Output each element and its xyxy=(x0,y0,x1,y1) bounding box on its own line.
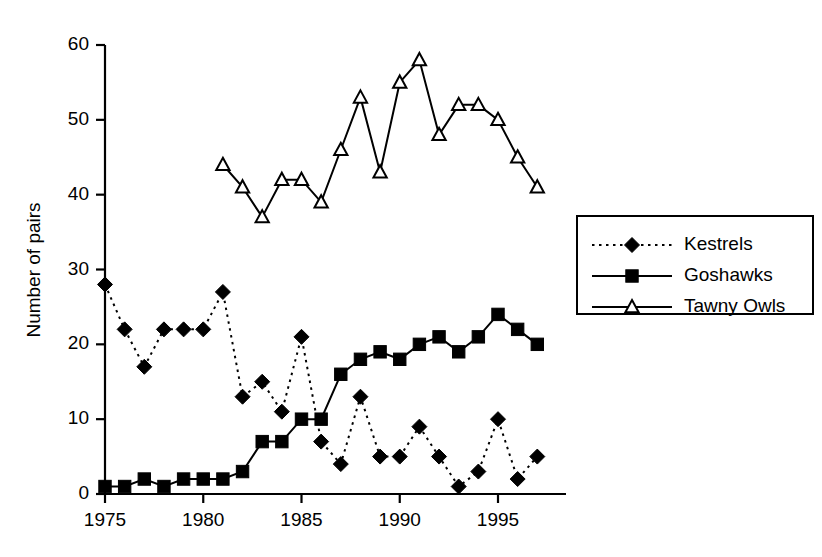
data-point-square xyxy=(394,353,406,365)
legend-label: Kestrels xyxy=(684,233,753,254)
data-point-diamond xyxy=(373,449,388,464)
x-tick-label: 1975 xyxy=(84,509,126,530)
data-point-square xyxy=(531,338,543,350)
data-point-triangle xyxy=(432,128,445,140)
y-tick-label: 10 xyxy=(68,407,89,428)
data-point-diamond xyxy=(510,472,525,487)
data-point-diamond xyxy=(117,322,132,337)
data-point-square xyxy=(492,308,504,320)
data-point-square xyxy=(217,473,229,485)
series-layer xyxy=(98,53,545,494)
data-point-diamond xyxy=(491,412,506,427)
data-point-diamond xyxy=(451,479,466,494)
data-point-diamond xyxy=(98,277,113,292)
y-axis-ticks: 0102030405060 xyxy=(68,33,105,503)
data-point-diamond xyxy=(274,404,289,419)
data-point-square xyxy=(335,368,347,380)
data-point-square xyxy=(138,473,150,485)
data-point-triangle xyxy=(354,90,367,102)
data-point-triangle xyxy=(413,53,426,65)
legend-label: Goshawks xyxy=(684,264,773,285)
data-point-diamond xyxy=(156,322,171,337)
data-point-diamond xyxy=(294,329,309,344)
data-point-triangle xyxy=(256,210,269,222)
data-point-square xyxy=(413,338,425,350)
data-point-diamond xyxy=(176,322,191,337)
data-point-square xyxy=(374,346,386,358)
y-tick-label: 20 xyxy=(68,332,89,353)
y-axis-title: Number of pairs xyxy=(23,202,44,337)
data-point-diamond xyxy=(196,322,211,337)
x-tick-label: 1990 xyxy=(379,509,421,530)
data-point-diamond xyxy=(314,434,329,449)
data-point-diamond xyxy=(432,449,447,464)
data-point-square xyxy=(354,353,366,365)
data-point-triangle xyxy=(511,150,524,162)
y-tick-label: 40 xyxy=(68,183,89,204)
data-point-square xyxy=(256,435,268,447)
data-point-square xyxy=(295,413,307,425)
data-point-square xyxy=(158,480,170,492)
data-point-square xyxy=(626,270,638,282)
series-line xyxy=(223,60,537,217)
data-point-triangle xyxy=(491,113,504,125)
data-point-square xyxy=(315,413,327,425)
data-point-square xyxy=(118,480,130,492)
data-point-diamond xyxy=(392,449,407,464)
data-point-diamond xyxy=(137,359,152,374)
data-point-triangle xyxy=(216,158,229,170)
x-tick-label: 1995 xyxy=(477,509,519,530)
x-tick-label: 1980 xyxy=(182,509,224,530)
legend-label: Tawny Owls xyxy=(684,295,785,316)
chart-legend: KestrelsGoshawksTawny Owls xyxy=(577,216,813,316)
series-tawny-owls xyxy=(216,53,544,222)
y-tick-label: 0 xyxy=(78,482,89,503)
y-tick-label: 30 xyxy=(68,258,89,279)
series-kestrels xyxy=(98,277,545,494)
data-point-diamond xyxy=(215,284,230,299)
data-point-square xyxy=(472,331,484,343)
population-line-chart: Number of pairs 0102030405060 1975198019… xyxy=(0,0,822,557)
y-tick-label: 50 xyxy=(68,108,89,129)
data-point-triangle xyxy=(334,143,347,155)
data-point-square xyxy=(236,465,248,477)
data-point-diamond xyxy=(353,389,368,404)
data-point-diamond xyxy=(255,374,270,389)
data-point-square xyxy=(511,323,523,335)
data-point-square xyxy=(197,473,209,485)
data-point-square xyxy=(276,435,288,447)
series-line xyxy=(105,284,537,486)
x-axis-ticks: 19751980198519901995 xyxy=(84,494,519,530)
data-point-square xyxy=(433,331,445,343)
data-point-diamond xyxy=(471,464,486,479)
data-point-square xyxy=(453,346,465,358)
data-point-square xyxy=(99,480,111,492)
data-point-square xyxy=(177,473,189,485)
x-tick-label: 1985 xyxy=(280,509,322,530)
y-tick-label: 60 xyxy=(68,33,89,54)
chart-figure: Number of pairs 0102030405060 1975198019… xyxy=(0,0,822,557)
data-point-diamond xyxy=(412,419,427,434)
data-point-triangle xyxy=(373,165,386,177)
data-point-triangle xyxy=(531,180,544,192)
